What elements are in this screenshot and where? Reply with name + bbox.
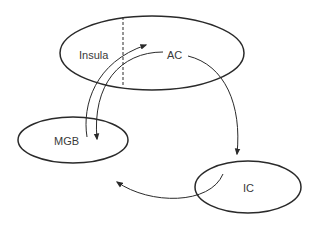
edge-ac-to-mgb	[96, 52, 163, 139]
ic-node: IC	[195, 161, 301, 213]
ac-label: AC	[167, 49, 182, 61]
auditory-pathway-diagram: Insula AC MGB IC	[0, 0, 317, 232]
ic-label: IC	[243, 182, 254, 194]
insula-label: Insula	[79, 49, 109, 61]
mgb-node: MGB	[18, 117, 128, 163]
mgb-label: MGB	[54, 135, 79, 147]
edge-ac-to-ic	[188, 56, 238, 154]
edge-ic-to-mgb	[117, 174, 223, 198]
